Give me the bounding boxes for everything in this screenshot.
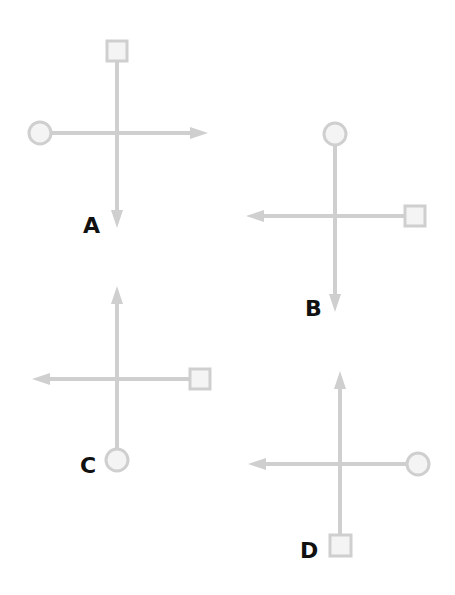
- figure-b: [246, 123, 425, 312]
- square-icon: [330, 535, 351, 556]
- arrow-down-icon: [111, 210, 123, 228]
- circle-icon: [29, 122, 51, 144]
- circle-icon: [407, 453, 429, 475]
- arrow-left-icon: [32, 373, 50, 385]
- square-icon: [190, 369, 210, 389]
- arrow-up-icon: [334, 371, 346, 389]
- arrow-down-icon: [329, 294, 341, 312]
- arrow-left-icon: [248, 458, 266, 470]
- square-icon: [405, 206, 425, 226]
- figure-label-c: C: [80, 455, 96, 477]
- arrow-up-icon: [111, 286, 123, 304]
- square-icon: [107, 41, 127, 61]
- circle-icon: [106, 449, 128, 471]
- figure-label-d: D: [300, 540, 318, 562]
- figure-label-a: A: [83, 215, 100, 237]
- arrow-left-icon: [246, 210, 264, 222]
- figure-a: [29, 41, 208, 228]
- arrow-right-icon: [190, 127, 208, 139]
- figure-c: [32, 286, 210, 471]
- figure-label-b: B: [305, 298, 322, 320]
- circle-icon: [324, 123, 346, 145]
- figure-d: [248, 371, 429, 556]
- diagram-canvas: [0, 0, 455, 595]
